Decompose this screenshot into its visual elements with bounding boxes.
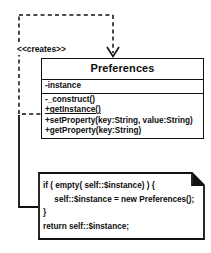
class-attribute: -instance — [42, 81, 203, 92]
note-anchor-line — [19, 115, 40, 207]
class-box-preferences[interactable]: Preferences -instance -_construct() +get… — [41, 58, 204, 139]
class-operation-static: +getInstance() — [42, 105, 203, 116]
note-code-line: self::$instance = new Preferences(); — [43, 193, 199, 207]
class-name-label: Preferences — [42, 59, 203, 80]
note-code-line: } — [43, 206, 199, 220]
class-attribute-compartment: -instance — [42, 80, 203, 94]
class-operation: +getProperty(key:String) — [42, 126, 203, 137]
note-code-text: if ( empty( self::$instance) ) { self::$… — [43, 179, 199, 233]
note-box-getinstance-body[interactable]: if ( empty( self::$instance) ) { self::$… — [38, 172, 205, 240]
uml-diagram-canvas: <<creates>> Preferences -instance -_cons… — [0, 0, 211, 253]
class-operation-compartment: -_construct() +getInstance() +setPropert… — [42, 94, 203, 138]
class-operation: -_construct() — [42, 95, 203, 106]
note-code-line: return self::$instance; — [43, 220, 199, 234]
stereotype-creates-label: <<creates>> — [16, 44, 67, 55]
class-operation: +setProperty(key:String, value:String) — [42, 116, 203, 127]
note-code-line: if ( empty( self::$instance) ) { — [43, 179, 199, 193]
